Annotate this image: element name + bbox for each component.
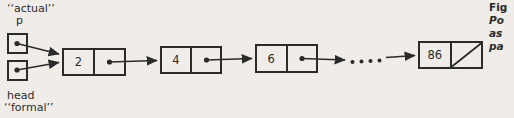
label-head: head bbox=[7, 90, 34, 101]
figure-caption-line-2: Po bbox=[489, 15, 504, 26]
node-pointer-cell bbox=[286, 46, 317, 71]
label-formal: ‘‘formal’’ bbox=[4, 102, 53, 113]
figure-caption-line-4: pa bbox=[489, 41, 504, 52]
label-actual: ‘‘actual’’ bbox=[7, 3, 55, 14]
list-node-3: 6 bbox=[255, 44, 318, 73]
node-value: 4 bbox=[162, 48, 190, 72]
node-pointer-cell-null bbox=[450, 43, 482, 67]
node-pointer-cell bbox=[190, 48, 220, 72]
figure-caption-line-3: as bbox=[489, 28, 502, 39]
pointer-box-head bbox=[7, 60, 28, 81]
pointer-box-p bbox=[7, 33, 28, 54]
node-pointer-cell bbox=[93, 50, 124, 74]
label-p: p bbox=[16, 15, 23, 26]
ellipsis-dots bbox=[351, 59, 382, 65]
node-value: 6 bbox=[257, 46, 286, 71]
figure-caption-line-1: Fig bbox=[489, 2, 507, 13]
node-value: 86 bbox=[420, 43, 450, 67]
list-node-1: 2 bbox=[62, 48, 126, 76]
linked-list-figure: ‘‘actual’’ p head ‘‘formal’’ 2 4 6 86 bbox=[0, 0, 514, 118]
list-node-last: 86 bbox=[418, 41, 483, 69]
node-value: 2 bbox=[64, 50, 93, 74]
list-node-2: 4 bbox=[160, 46, 222, 74]
